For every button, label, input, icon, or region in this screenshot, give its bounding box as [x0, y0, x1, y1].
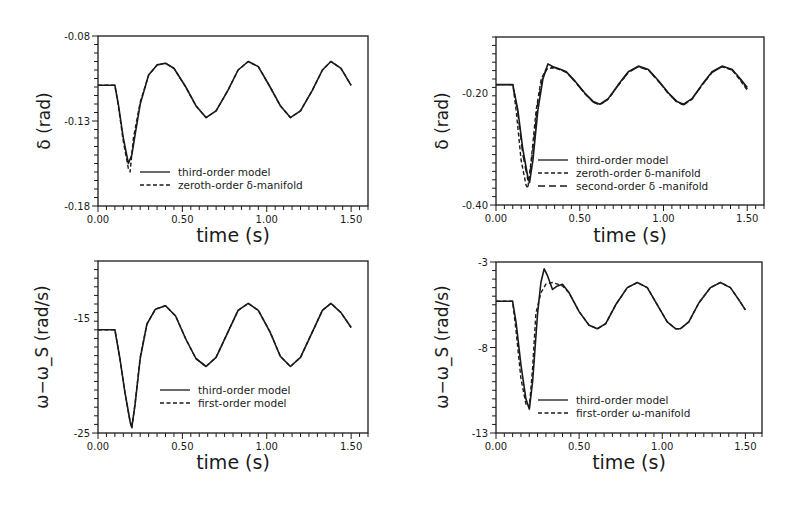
- x-tick-label: 1.50: [734, 441, 756, 452]
- x-tick-label: 0.50: [568, 441, 590, 452]
- x-tick-label: 0.00: [485, 441, 507, 452]
- xlabel: time (s): [196, 224, 270, 246]
- subplot-top-left: 0.000.501.001.50-0.18-0.13-0.08third-ord…: [34, 31, 368, 246]
- xlabel: time (s): [592, 451, 666, 473]
- figure: 0.000.501.001.50-0.18-0.13-0.08third-ord…: [0, 0, 789, 506]
- x-tick-label: 1.50: [736, 213, 758, 224]
- subplot-bottom-left: 0.000.501.001.50-25-15third-order modelf…: [32, 261, 368, 473]
- series-line: [98, 62, 351, 164]
- xlabel: time (s): [196, 451, 270, 473]
- legend-label: second-order δ -manifold: [576, 180, 708, 192]
- series-line: [98, 62, 351, 173]
- series-line: [496, 283, 745, 408]
- y-tick-label: -8: [478, 343, 488, 354]
- legend-label: first-order ω-manifold: [576, 407, 690, 419]
- x-tick-label: 1.50: [340, 214, 362, 225]
- legend: third-order modelzeroth-order δ-manifold: [140, 166, 303, 191]
- legend-label: zeroth-order δ-manifold: [576, 167, 701, 179]
- y-tick-label: -0.20: [462, 88, 488, 99]
- ylabel: δ (rad): [432, 92, 452, 149]
- x-tick-label: 0.50: [171, 214, 193, 225]
- legend-label: zeroth-order δ-manifold: [178, 179, 303, 191]
- ylabel: δ (rad): [34, 92, 54, 149]
- subplot-bottom-right: 0.000.501.001.50-13-8-3third-order model…: [432, 257, 762, 473]
- x-tick-label: 0.50: [171, 441, 193, 452]
- ylabel: ω−ω_S (rad/s): [432, 285, 453, 408]
- legend: third-order modelfirst-order model: [160, 384, 291, 409]
- y-tick-label: -0.13: [64, 116, 90, 127]
- x-tick-label: 1.00: [652, 213, 674, 224]
- x-tick-label: 0.00: [87, 214, 109, 225]
- x-tick-label: 0.50: [569, 213, 591, 224]
- legend-label: third-order model: [178, 166, 271, 178]
- legend-label: first-order model: [198, 397, 287, 409]
- y-tick-label: -3: [478, 257, 488, 268]
- legend-label: third-order model: [198, 384, 291, 396]
- legend: third-order modelzeroth-order δ-manifold…: [538, 154, 708, 192]
- y-tick-label: -25: [74, 428, 90, 439]
- x-tick-label: 1.50: [340, 441, 362, 452]
- series-line: [98, 303, 351, 428]
- legend-label: third-order model: [576, 154, 669, 166]
- y-tick-label: -0.40: [462, 200, 488, 211]
- legend-label: third-order model: [576, 394, 669, 406]
- subplot-top-right: 0.000.501.001.50-0.40-0.20third-order mo…: [432, 37, 764, 246]
- y-tick-label: -0.18: [64, 201, 90, 212]
- ylabel: ω−ω_S (rad/s): [32, 285, 53, 408]
- legend: third-order modelfirst-order ω-manifold: [538, 394, 690, 419]
- xlabel: time (s): [593, 224, 667, 246]
- x-tick-label: 0.00: [87, 441, 109, 452]
- x-tick-label: 0.00: [485, 213, 507, 224]
- y-tick-label: -0.08: [64, 31, 90, 42]
- y-tick-label: -15: [74, 313, 90, 324]
- y-tick-label: -13: [472, 428, 488, 439]
